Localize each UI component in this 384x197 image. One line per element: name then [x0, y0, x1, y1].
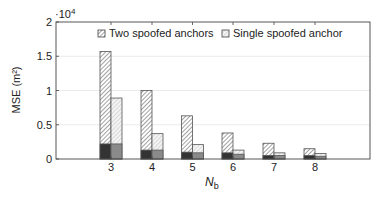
y-tick-label: 1.5 — [37, 50, 52, 62]
x-tick-label: 8 — [312, 161, 318, 173]
bar-two-spoofed-8 — [304, 149, 315, 159]
y-tick-label: 1 — [46, 85, 52, 97]
bar-two-spoofed-6 — [222, 133, 233, 159]
x-axis-label: Nb — [205, 175, 219, 191]
y-tick-label: 2 — [46, 16, 52, 28]
y-tick-label: 0.5 — [37, 119, 52, 131]
legend-item-two-spoofed[interactable]: Two spoofed anchors — [98, 27, 214, 39]
plot-area — [56, 22, 370, 159]
x-tick-label: 3 — [108, 161, 114, 173]
y-axis-label: MSE (m²) — [10, 66, 22, 113]
bar-single-spoofed-8 — [315, 154, 326, 159]
bar-single-spoofed-4 — [152, 134, 163, 159]
y-tick-label: 0 — [46, 153, 52, 165]
y-multiplier: ·104 — [55, 7, 76, 20]
bar-two-spoofed-5 — [182, 116, 193, 159]
bar-single-spoofed-3 — [111, 98, 122, 159]
x-tick-label: 6 — [230, 161, 236, 173]
legend-item-single-spoofed[interactable]: Single spoofed anchor — [222, 27, 343, 39]
x-tick-label: 5 — [189, 161, 195, 173]
legend-swatch-hatch-dense-icon — [98, 30, 105, 37]
legend-label: Two spoofed anchors — [109, 27, 214, 39]
bar-single-spoofed-6 — [233, 150, 244, 159]
y-tick-labels: 00.511.52 — [37, 16, 52, 165]
bar-two-spoofed-7 — [263, 143, 274, 159]
bar-single-spoofed-7 — [274, 153, 285, 159]
bar-two-spoofed-3 — [100, 51, 111, 159]
mse-bar-chart: 00.511.52 345678 ·104 MSE (m²) Nb Two sp… — [0, 0, 384, 197]
x-tick-label: 4 — [149, 161, 155, 173]
legend-swatch-hatch-light-icon — [222, 30, 229, 37]
x-tick-labels: 345678 — [108, 161, 318, 173]
x-tick-label: 7 — [271, 161, 277, 173]
legend-label: Single spoofed anchor — [233, 27, 343, 39]
bar-single-spoofed-5 — [193, 145, 204, 159]
bar-two-spoofed-4 — [141, 91, 152, 160]
